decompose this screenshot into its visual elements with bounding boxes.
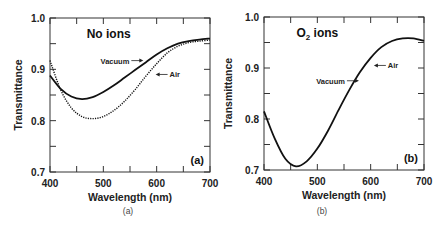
annotation-air: Air <box>170 70 181 79</box>
x-tick-label: 600 <box>148 178 165 189</box>
chart-panel-a: 4005006007000.70.80.91.0Wavelength (nm)T… <box>12 13 219 216</box>
panel-caption: (b) <box>317 206 328 216</box>
y-tick-label: 0.7 <box>31 167 45 178</box>
y-tick-label: 1.0 <box>245 12 259 23</box>
plot-frame <box>264 17 424 170</box>
arrow-right-icon <box>355 79 359 83</box>
panel-tag: (b) <box>404 152 418 164</box>
panel-caption: (a) <box>123 206 134 216</box>
annotation-vacuum: Vacuum <box>101 57 130 66</box>
y-tick-label: 0.7 <box>245 165 259 176</box>
x-tick-label: 500 <box>309 176 326 187</box>
x-axis-title: Wavelength (nm) <box>88 191 172 203</box>
x-axis-title: Wavelength (nm) <box>302 189 386 201</box>
y-axis-title: Transmittance <box>222 58 234 129</box>
x-tick-label: 700 <box>202 178 219 189</box>
x-tick-label: 700 <box>416 176 433 187</box>
y-tick-label: 0.8 <box>245 114 259 125</box>
chart-panel-b: 4005006007000.70.80.91.0Wavelength (nm)T… <box>222 12 433 216</box>
series-vacuum-line <box>264 38 424 166</box>
arrow-right-icon <box>139 59 143 63</box>
panel-tag: (a) <box>191 154 205 166</box>
x-tick-label: 600 <box>362 176 379 187</box>
x-tick-label: 500 <box>95 178 112 189</box>
series-vacuum-line <box>50 39 210 100</box>
y-tick-label: 1.0 <box>31 13 45 24</box>
panel-title: No ions <box>87 27 131 41</box>
panel-title: O2 ions <box>296 26 338 42</box>
y-tick-label: 0.9 <box>245 63 259 74</box>
y-tick-label: 0.8 <box>31 116 45 127</box>
y-axis-title: Transmittance <box>12 59 24 130</box>
series-air-line <box>50 40 210 119</box>
annotation-vacuum: Vacuum <box>316 77 345 86</box>
x-tick-label: 400 <box>256 176 273 187</box>
y-tick-label: 0.9 <box>31 64 45 75</box>
annotation-air: Air <box>388 61 399 70</box>
x-tick-label: 400 <box>42 178 59 189</box>
figure: 4005006007000.70.80.91.0Wavelength (nm)T… <box>0 0 446 227</box>
